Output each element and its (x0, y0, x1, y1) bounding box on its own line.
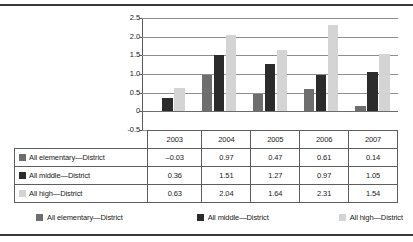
legend-label: All elementary—District (47, 213, 123, 222)
table-cell: 1.27 (251, 167, 300, 185)
y-axis-tick (139, 74, 142, 75)
table-year-header: 2005 (251, 131, 300, 149)
table-cell: 0.61 (300, 149, 349, 167)
table-row-label-cell: All high—District (15, 185, 148, 203)
y-axis-tick (139, 55, 142, 56)
gridline (142, 18, 398, 19)
legend-label: All high—District (350, 213, 403, 222)
table-row: All high—District0.632.041.642.311.54 (15, 185, 398, 203)
bar (214, 55, 225, 111)
bar (150, 111, 161, 112)
table-cell: 0.63 (148, 185, 202, 203)
table-year-header: 2007 (349, 131, 398, 149)
bar (367, 72, 378, 111)
bar (265, 64, 276, 111)
gridline (142, 55, 398, 56)
legend-swatch-icon (36, 214, 43, 221)
plot-area: 2.52.01.51.00.50-0.5 (108, 18, 398, 130)
legend-item: All elementary—District (36, 213, 123, 222)
bar (355, 106, 366, 111)
y-axis-tick (139, 18, 142, 19)
table-row: All elementary—District–0.030.970.470.61… (15, 149, 398, 167)
table-row-label: All high—District (29, 189, 82, 198)
table-cell: 0.97 (300, 167, 349, 185)
table-row-label-cell: All elementary—District (15, 149, 148, 167)
table-year-header: 2003 (148, 131, 202, 149)
chart-legend: All elementary—DistrictAll middle—Distri… (14, 210, 398, 224)
table-corner-cell (15, 131, 148, 149)
table-cell: 0.47 (251, 149, 300, 167)
table-row-label: All middle—District (29, 171, 90, 180)
zero-line (142, 111, 398, 112)
y-axis-tick (139, 37, 142, 38)
table-cell: 1.54 (349, 185, 398, 203)
table-row-label-cell: All middle—District (15, 167, 148, 185)
bar (328, 25, 339, 111)
legend-item: All middle—District (197, 213, 269, 222)
table-cell: 2.04 (202, 185, 251, 203)
table-cell: –0.03 (148, 149, 202, 167)
table-year-header: 2006 (300, 131, 349, 149)
legend-item: All high—District (339, 213, 403, 222)
bar (316, 75, 327, 111)
bars-canvas (142, 18, 398, 130)
bar (253, 94, 264, 112)
legend-swatch-icon (197, 214, 204, 221)
bottom-divider (0, 234, 413, 236)
y-axis-tick (139, 93, 142, 94)
table-cell: 2.31 (300, 185, 349, 203)
table-header-row: 20032004200520062007 (15, 131, 398, 149)
table-cell: 1.05 (349, 167, 398, 185)
y-axis-labels: 2.52.01.51.00.50-0.5 (108, 18, 140, 130)
table-cell: 1.51 (202, 167, 251, 185)
series-swatch-icon (19, 190, 26, 197)
bar (277, 50, 288, 111)
table-year-header: 2004 (202, 131, 251, 149)
gridline (142, 37, 398, 38)
table-cell: 0.36 (148, 167, 202, 185)
chart-figure: 2.52.01.51.00.50-0.5 2003200420052006200… (0, 0, 413, 242)
data-table: 20032004200520062007All elementary—Distr… (14, 130, 398, 203)
y-axis-tick (139, 111, 142, 112)
table-cell: 1.64 (251, 185, 300, 203)
table-cell: 0.14 (349, 149, 398, 167)
bar (226, 35, 237, 111)
legend-label: All middle—District (208, 213, 269, 222)
bar (379, 54, 390, 111)
series-swatch-icon (19, 154, 26, 161)
table-cell: 0.97 (202, 149, 251, 167)
bar (304, 89, 315, 112)
legend-swatch-icon (339, 214, 346, 221)
series-swatch-icon (19, 172, 26, 179)
table-row: All middle—District0.361.511.270.971.05 (15, 167, 398, 185)
bar (202, 75, 213, 111)
table-row-label: All elementary—District (29, 153, 105, 162)
top-divider (0, 4, 413, 6)
bar (174, 88, 185, 112)
bar (162, 98, 173, 111)
